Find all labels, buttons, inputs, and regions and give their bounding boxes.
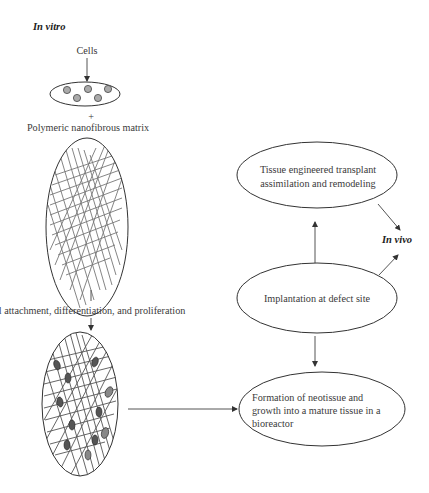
implantation-to-invivo-arrow: [379, 255, 398, 275]
node-transplant: Tissue engineered transplant assimilatio…: [237, 142, 397, 208]
in-vitro-label: In vitro: [32, 21, 65, 32]
implantation-line1: Implantation at defect site: [264, 293, 371, 304]
matrix-label: Polymeric nanofibrous matrix: [27, 122, 149, 133]
nanofibrous-matrix: [46, 138, 128, 316]
plus-sign: +: [88, 111, 94, 122]
tissue-engineering-diagram: In vitro Cells + Polymeric nanofibrous m…: [0, 0, 429, 493]
node-implantation: Implantation at defect site: [237, 263, 397, 333]
node-formation: Formation of neotissue and growth into a…: [239, 372, 405, 446]
in-vivo-label: In vivo: [381, 234, 412, 245]
formation-line3: bioreactor: [252, 418, 294, 429]
formation-line1: Formation of neotissue and: [252, 392, 363, 403]
transplant-to-invivo-arrow: [378, 204, 400, 230]
seeded-scaffold: [42, 330, 122, 478]
transplant-line1: Tissue engineered transplant: [260, 164, 376, 175]
attachment-label: Cell attachment, differentiation, and pr…: [0, 305, 185, 316]
cells-label: Cells: [77, 45, 98, 56]
cell-suspension: [50, 82, 120, 106]
formation-line2: growth into a mature tissue in a: [252, 405, 381, 416]
transplant-line2: assimilation and remodeling: [260, 178, 375, 189]
